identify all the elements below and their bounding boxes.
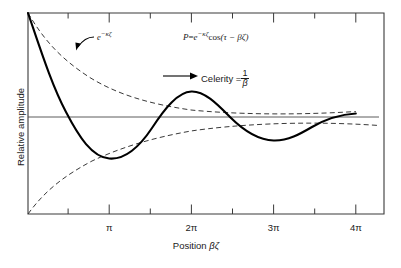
figure-container: P=e−κζcos(τ − βζ) e−κζ Celerity =1β π 2π…	[0, 0, 401, 268]
x-axis-title-symbol: βζ	[209, 240, 219, 251]
equation-argument: (τ − βζ)	[221, 32, 249, 42]
envelope-leader-arrow-icon	[75, 37, 94, 50]
upper-envelope-curve	[28, 13, 356, 114]
y-axis-title: Relative amplitude	[16, 88, 26, 166]
x-axis-title: Position βζ	[173, 241, 219, 251]
celerity-denominator: β	[241, 79, 248, 88]
x-tick-label-pi: π	[106, 223, 113, 233]
top-axis-ticks	[68, 13, 356, 23]
celerity-annotation: Celerity =1β	[201, 70, 249, 89]
envelope-exponent: −κζ	[101, 30, 112, 38]
x-tick-label-3pi: 3π	[268, 223, 280, 233]
x-axis-ticks	[68, 205, 356, 215]
equation-exponent: −κζ	[198, 30, 209, 38]
envelope-annotation: e−κζ	[97, 31, 112, 41]
celerity-arrow-icon	[163, 73, 198, 80]
equation-annotation: P=e−κζcos(τ − βζ)	[183, 31, 248, 42]
celerity-fraction: 1β	[241, 69, 248, 88]
x-axis-title-text: Position	[173, 240, 207, 251]
celerity-text: Celerity =	[201, 73, 241, 84]
equation-cos: cos	[209, 32, 221, 42]
x-tick-label-2pi: 2π	[185, 223, 197, 233]
x-tick-label-4pi: 4π	[350, 223, 362, 233]
